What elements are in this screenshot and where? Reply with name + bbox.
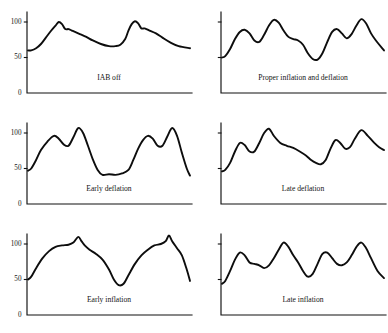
chart-canvas-proper-inflation-and-deflation: Proper inflation and deflation xyxy=(194,0,388,111)
panel-caption-late-inflation: Late inflation xyxy=(282,295,323,304)
y-tick-label-100: 100 xyxy=(11,129,22,137)
chart-panel-early-inflation: 050100Early inflation xyxy=(0,222,194,333)
chart-panel-early-deflation: 050100Early deflation xyxy=(0,111,194,222)
y-tick-label-0: 0 xyxy=(18,311,22,319)
chart-canvas-iab-off: 050100IAB off xyxy=(0,0,194,111)
chart-canvas-late-deflation: Late deflation xyxy=(194,111,388,222)
waveform-trace-iab-off xyxy=(28,21,190,50)
waveform-trace-early-deflation xyxy=(28,128,190,176)
chart-canvas-early-inflation: 050100Early inflation xyxy=(0,222,194,333)
y-tick-label-50: 50 xyxy=(14,53,22,61)
panel-caption-proper-inflation-and-deflation: Proper inflation and deflation xyxy=(258,73,348,82)
waveform-trace-proper-inflation-and-deflation xyxy=(222,19,384,60)
panel-caption-early-inflation: Early inflation xyxy=(87,295,131,304)
panel-caption-early-deflation: Early deflation xyxy=(86,184,132,193)
chart-canvas-early-deflation: 050100Early deflation xyxy=(0,111,194,222)
y-tick-label-0: 0 xyxy=(18,89,22,97)
y-tick-label-50: 50 xyxy=(14,275,22,283)
panel-caption-late-deflation: Late deflation xyxy=(282,184,325,193)
waveform-trace-late-inflation xyxy=(222,243,384,284)
waveform-trace-late-deflation xyxy=(222,129,384,172)
chart-panel-iab-off: 050100IAB off xyxy=(0,0,194,111)
waveform-trace-early-inflation xyxy=(28,235,190,285)
y-tick-label-50: 50 xyxy=(14,164,22,172)
iabp-waveform-figure: 050100IAB offProper inflation and deflat… xyxy=(0,0,388,333)
chart-panel-late-deflation: Late deflation xyxy=(194,111,388,222)
chart-panel-proper-inflation-and-deflation: Proper inflation and deflation xyxy=(194,0,388,111)
panel-caption-iab-off: IAB off xyxy=(97,73,121,82)
chart-panel-late-inflation: Late inflation xyxy=(194,222,388,333)
chart-canvas-late-inflation: Late inflation xyxy=(194,222,388,333)
y-tick-label-100: 100 xyxy=(11,18,22,26)
y-tick-label-100: 100 xyxy=(11,240,22,248)
y-tick-label-0: 0 xyxy=(18,200,22,208)
